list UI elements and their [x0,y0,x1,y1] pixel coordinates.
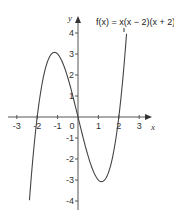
x-tick-label: 1 [96,121,101,131]
x-axis-arrow-icon [145,114,152,120]
x-tick-label: 3 [137,121,142,131]
function-label: f(x) = x(x − 2)(x + 2) [96,17,174,27]
y-tick-label: -2 [66,154,74,164]
function-plot: x y -3-2-10123 -4-3-2-11234 f(x) = x(x −… [0,0,174,219]
y-axis-arrow-icon [75,16,81,23]
x-axis-label: x [150,122,155,132]
y-tick-label: 3 [69,49,74,59]
x-tick-label: -2 [33,121,41,131]
x-tick-label: 0 [69,121,74,131]
x-tick-label: -3 [13,121,21,131]
y-tick-label: -3 [66,175,74,185]
y-axis-label: y [67,13,72,23]
y-tick-label: -1 [66,133,74,143]
y-tick-label: 2 [69,70,74,80]
y-tick-label: 4 [69,28,74,38]
y-tick-label: -4 [66,196,74,206]
x-tick-label: -1 [54,121,62,131]
